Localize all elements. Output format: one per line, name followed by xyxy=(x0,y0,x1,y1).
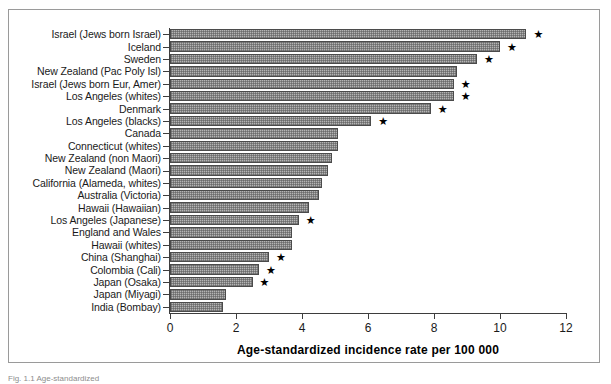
y-axis-label: New Zealand (Maori) xyxy=(0,164,166,176)
x-axis-tick xyxy=(500,313,501,319)
bar-row: ★ xyxy=(170,115,566,127)
y-axis-label: Israel (Jews born Israel) xyxy=(0,28,166,40)
significance-asterisk: ★ xyxy=(276,252,286,263)
y-axis-label: Iceland xyxy=(0,40,166,52)
y-axis-label: Connecticut (whites) xyxy=(0,140,166,152)
figure: Israel (Jews born Israel)IcelandSwedenNe… xyxy=(0,0,611,384)
y-axis-label: Canada xyxy=(0,127,166,139)
y-axis-label: Sweden xyxy=(0,53,166,65)
x-axis-tick xyxy=(236,313,237,319)
bar xyxy=(170,66,457,76)
x-axis-tick-label: 8 xyxy=(431,321,438,335)
bar xyxy=(170,165,328,175)
significance-asterisk: ★ xyxy=(461,78,471,89)
bar xyxy=(170,190,319,200)
bar xyxy=(170,153,332,163)
bar-row: ★ xyxy=(170,90,566,102)
bar-row: ★ xyxy=(170,214,566,226)
y-axis-label: China (Shanghai) xyxy=(0,251,166,263)
bar-row xyxy=(170,65,566,77)
bar-row: ★ xyxy=(170,40,566,52)
y-axis-tick xyxy=(163,59,170,60)
significance-asterisk: ★ xyxy=(438,103,448,114)
bar-row xyxy=(170,140,566,152)
bar-row: ★ xyxy=(170,53,566,65)
x-axis-tick-label: 6 xyxy=(365,321,372,335)
y-axis-tick xyxy=(163,133,170,134)
y-axis-label: New Zealand (non Maori) xyxy=(0,152,166,164)
x-axis-tick xyxy=(302,313,303,319)
y-axis-label: England and Wales xyxy=(0,226,166,238)
x-axis-tick xyxy=(434,313,435,319)
bar xyxy=(170,54,477,64)
bar xyxy=(170,29,526,39)
bar-row xyxy=(170,201,566,213)
y-axis-label: Colombia (Cali) xyxy=(0,263,166,275)
x-axis-title: Age-standardized incidence rate per 100 … xyxy=(170,343,566,357)
bar-row xyxy=(170,239,566,251)
y-axis-tick xyxy=(163,121,170,122)
x-axis-tick-label: 12 xyxy=(559,321,572,335)
y-axis-tick xyxy=(163,307,170,308)
y-axis-tick xyxy=(163,34,170,35)
figure-caption: Fig. 1.1 Age-standardized xyxy=(8,374,208,384)
significance-asterisk: ★ xyxy=(306,215,316,226)
y-axis-label: Israel (Jews born Eur, Amer) xyxy=(0,78,166,90)
bar-row xyxy=(170,189,566,201)
y-axis-label: Hawaii (Hawaiian) xyxy=(0,201,166,213)
significance-asterisk: ★ xyxy=(507,41,517,52)
x-axis-tick-label: 2 xyxy=(233,321,240,335)
significance-asterisk: ★ xyxy=(533,29,543,40)
bar-row: ★ xyxy=(170,251,566,263)
bar xyxy=(170,289,226,299)
bar xyxy=(170,91,454,101)
bar-row xyxy=(170,152,566,164)
bar xyxy=(170,178,322,188)
y-axis-tick xyxy=(163,220,170,221)
y-axis-label: Los Angeles (whites) xyxy=(0,90,166,102)
y-axis-tick xyxy=(163,270,170,271)
bar-row: ★ xyxy=(170,276,566,288)
y-axis-label: Denmark xyxy=(0,102,166,114)
bar xyxy=(170,302,223,312)
y-axis-label: Hawaii (whites) xyxy=(0,239,166,251)
x-axis-tick-label: 4 xyxy=(299,321,306,335)
bar xyxy=(170,79,454,89)
significance-asterisk: ★ xyxy=(484,53,494,64)
significance-asterisk: ★ xyxy=(461,91,471,102)
bar-row xyxy=(170,177,566,189)
y-axis-label: Australia (Victoria) xyxy=(0,189,166,201)
x-axis-tick xyxy=(368,313,369,319)
bar xyxy=(170,128,338,138)
x-axis-tick-label: 0 xyxy=(167,321,174,335)
y-axis-label: Los Angeles (Japanese) xyxy=(0,214,166,226)
significance-asterisk: ★ xyxy=(260,277,270,288)
y-axis-tick xyxy=(163,109,170,110)
y-axis-tick xyxy=(163,232,170,233)
bar-row: ★ xyxy=(170,263,566,275)
bar xyxy=(170,215,299,225)
bar xyxy=(170,116,371,126)
bar xyxy=(170,103,431,113)
bar xyxy=(170,252,269,262)
y-axis-tick xyxy=(163,245,170,246)
bar xyxy=(170,202,309,212)
bar-row: ★ xyxy=(170,102,566,114)
bar xyxy=(170,41,500,51)
bar-row xyxy=(170,127,566,139)
y-axis-tick xyxy=(163,171,170,172)
y-axis-tick xyxy=(163,84,170,85)
bar-row xyxy=(170,164,566,176)
y-axis-tick xyxy=(163,47,170,48)
significance-asterisk: ★ xyxy=(266,264,276,275)
y-axis-label: New Zealand (Pac Poly Isl) xyxy=(0,65,166,77)
bar-row xyxy=(170,288,566,300)
significance-asterisk: ★ xyxy=(378,115,388,126)
y-axis-tick xyxy=(163,208,170,209)
bar xyxy=(170,264,259,274)
y-axis-tick xyxy=(163,158,170,159)
y-axis-tick xyxy=(163,71,170,72)
y-axis-tick xyxy=(163,282,170,283)
x-axis-tick xyxy=(170,313,171,319)
bar xyxy=(170,240,292,250)
